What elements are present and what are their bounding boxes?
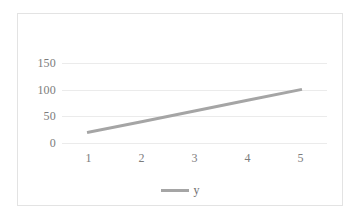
y-tick-label-100: 100 bbox=[37, 82, 56, 97]
x-tick-label-3: 3 bbox=[192, 151, 198, 166]
y-tick-label-150: 150 bbox=[37, 56, 56, 71]
series-line-y bbox=[89, 90, 301, 133]
gridline-y-0 bbox=[62, 143, 327, 144]
series-canvas bbox=[62, 63, 327, 143]
x-tick-label-4: 4 bbox=[245, 151, 251, 166]
y-tick-label-50: 50 bbox=[44, 109, 56, 124]
chart-legend: y bbox=[18, 184, 342, 196]
x-tick-label-2: 2 bbox=[139, 151, 145, 166]
y-tick-label-0: 0 bbox=[50, 136, 56, 151]
legend-swatch-y bbox=[161, 189, 189, 192]
chart-plot-wrapper: 050100150 12345 y bbox=[18, 14, 342, 205]
legend-label-y: y bbox=[194, 184, 200, 196]
x-tick-label-1: 1 bbox=[86, 151, 92, 166]
plot-area: 050100150 12345 bbox=[62, 63, 327, 143]
x-tick-label-5: 5 bbox=[298, 151, 304, 166]
chart-frame: 050100150 12345 y bbox=[17, 13, 343, 206]
